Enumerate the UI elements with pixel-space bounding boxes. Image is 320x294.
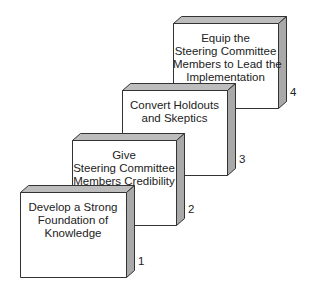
step-box-label-line: Develop a Strong: [20, 201, 126, 214]
step-box-label-line: Foundation of: [20, 214, 126, 227]
step-box-label-line: Members to Lead the: [173, 58, 278, 71]
step-box-label: Develop a StrongFoundation ofKnowledge: [20, 201, 126, 240]
step-box-label: Equip theSteering CommitteeMembers to Le…: [173, 32, 278, 84]
step-box-label-line: Give: [72, 149, 176, 162]
step-box-side-face: [228, 84, 236, 176]
step-box-label-line: Steering Committee: [173, 45, 278, 58]
step-box-label-line: Convert Holdouts: [122, 99, 227, 112]
step-box-top-face: [174, 17, 287, 24]
step-box-label-line: Implementation: [173, 71, 278, 84]
step-box-side-face: [177, 134, 185, 226]
step-box-label-line: and Skeptics: [122, 112, 227, 125]
step-box-label: GiveSteering CommitteeMembers Credibilit…: [72, 149, 176, 188]
step-number: 1: [138, 255, 144, 267]
step-number: 4: [290, 86, 296, 98]
step-number: 3: [239, 153, 245, 165]
step-box-top-face: [73, 134, 185, 141]
step-box-label-line: Equip the: [173, 32, 278, 45]
step-number: 2: [188, 203, 194, 215]
step-box-label-line: Steering Committee: [72, 162, 176, 175]
step-box-top-face: [123, 84, 236, 91]
step-box-label-line: Members Credibility: [72, 175, 176, 188]
step-box-side-face: [127, 186, 135, 278]
step-box-label: Convert Holdoutsand Skeptics: [122, 99, 227, 125]
step-box-label-line: Knowledge: [20, 227, 126, 240]
